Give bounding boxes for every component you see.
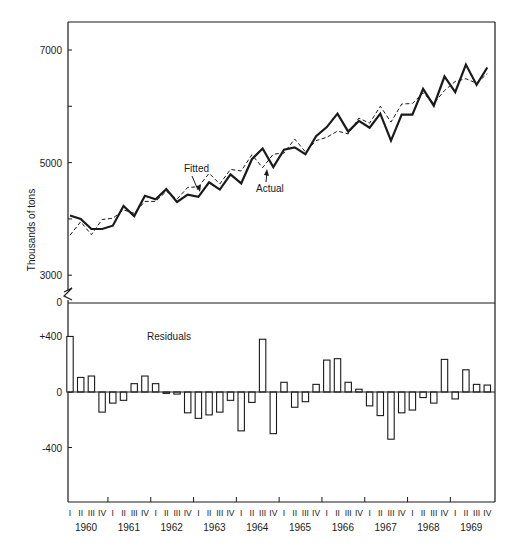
y-tick-label: +400 — [39, 331, 62, 342]
year-label: 1961 — [118, 522, 141, 533]
quarter-label: I — [411, 508, 413, 518]
year-label: 1960 — [75, 522, 98, 533]
residual-bar — [302, 392, 308, 402]
year-label: 1967 — [375, 522, 398, 533]
residual-bar — [463, 370, 469, 392]
year-label: 1965 — [289, 522, 312, 533]
residual-bar — [217, 392, 223, 412]
quarter-label: III — [430, 508, 437, 518]
quarter-label: IV — [141, 508, 149, 518]
residual-bar — [377, 392, 383, 416]
top-y-ticks: 700050003000 — [40, 45, 72, 281]
residual-bar — [110, 392, 116, 403]
actual-label: Actual — [256, 183, 284, 194]
quarter-label: II — [207, 508, 212, 518]
quarter-label: IV — [269, 508, 277, 518]
quarter-label: II — [292, 508, 297, 518]
quarter-label: II — [335, 508, 340, 518]
y-tick-label: 7000 — [40, 45, 63, 56]
quarter-label: II — [378, 508, 383, 518]
year-label: 1969 — [460, 522, 483, 533]
chart-frame — [64, 22, 495, 502]
residual-bar — [399, 392, 405, 413]
year-label: 1968 — [417, 522, 440, 533]
fitted-label: Fitted — [184, 163, 209, 174]
break-zero-label: 0 — [56, 297, 62, 308]
quarter-label: I — [283, 508, 285, 518]
quarter-label: II — [164, 508, 169, 518]
residual-bar — [324, 360, 330, 392]
residual-bar — [142, 376, 148, 392]
fitted-line — [70, 74, 487, 236]
quarter-label: IV — [312, 508, 320, 518]
quarter-label: III — [173, 508, 180, 518]
y-tick-label: -400 — [42, 443, 62, 454]
quarter-label: IV — [184, 508, 192, 518]
residual-bar — [270, 392, 276, 434]
year-label: 1962 — [161, 522, 184, 533]
residual-bar — [334, 359, 340, 392]
residual-bar — [313, 384, 319, 392]
quarter-label: II — [250, 508, 255, 518]
quarter-label: I — [112, 508, 114, 518]
residual-bar — [99, 392, 105, 412]
residual-bar — [152, 384, 158, 392]
residual-bar — [292, 392, 298, 407]
y-axis-label: Thousands of tons — [26, 189, 37, 271]
quarter-label: I — [69, 508, 71, 518]
actual-line — [70, 65, 487, 229]
quarter-label: III — [302, 508, 309, 518]
residual-bar — [67, 336, 73, 392]
quarter-label: III — [387, 508, 394, 518]
y-tick-label: 0 — [56, 387, 62, 398]
quarter-label: II — [121, 508, 126, 518]
residual-bar — [473, 384, 479, 392]
residual-bar — [185, 392, 191, 413]
residual-bar — [366, 392, 372, 406]
y-tick-label: 3000 — [40, 270, 63, 281]
residual-bar — [120, 392, 126, 400]
quarter-label: IV — [398, 508, 406, 518]
fitted-vs-actual-chart: Thousands of tons 700050003000 +4000-400… — [0, 0, 517, 551]
quarter-label: IV — [226, 508, 234, 518]
quarter-label: I — [197, 508, 199, 518]
residual-bar — [420, 392, 426, 398]
quarter-label: II — [421, 508, 426, 518]
residual-bar — [88, 376, 94, 392]
quarter-label: IV — [483, 508, 491, 518]
fitted-arrow-icon — [192, 176, 198, 190]
residual-bars — [67, 336, 491, 439]
residual-bar — [441, 359, 447, 392]
residual-bar — [206, 392, 212, 415]
residual-bar — [345, 382, 351, 392]
quarter-label: I — [326, 508, 328, 518]
quarter-label: I — [154, 508, 156, 518]
residual-bar — [238, 392, 244, 431]
quarter-label: III — [259, 508, 266, 518]
residual-bar — [452, 392, 458, 399]
y-tick-label: 5000 — [40, 158, 63, 169]
residuals-label: Residuals — [147, 331, 191, 342]
axis-break-icon — [64, 288, 72, 300]
residual-bar — [431, 392, 437, 403]
year-label: 1964 — [246, 522, 269, 533]
quarter-label: II — [78, 508, 83, 518]
residual-bar — [484, 385, 490, 392]
quarter-label: III — [345, 508, 352, 518]
quarter-label: II — [464, 508, 469, 518]
quarter-label: IV — [440, 508, 448, 518]
line-series — [70, 65, 487, 236]
year-label: 1966 — [332, 522, 355, 533]
quarter-label: IV — [355, 508, 363, 518]
year-label: 1963 — [203, 522, 226, 533]
residual-bar — [388, 392, 394, 439]
quarter-label: IV — [98, 508, 106, 518]
quarter-label: III — [473, 508, 480, 518]
residual-bar — [259, 339, 265, 392]
quarter-label: III — [216, 508, 223, 518]
residual-bar — [409, 392, 415, 410]
quarter-label: I — [368, 508, 370, 518]
residual-bar — [78, 377, 84, 392]
residual-bar — [195, 392, 201, 418]
quarter-label: I — [454, 508, 456, 518]
